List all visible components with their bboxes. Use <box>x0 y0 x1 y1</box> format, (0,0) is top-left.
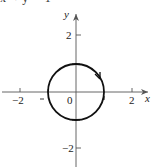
x-tick-label-2: 2 <box>129 94 135 106</box>
x-axis <box>2 88 148 95</box>
x-tick-label-neg2: −2 <box>12 94 24 106</box>
origin-label: 0 <box>67 94 73 106</box>
y-axis-label: y <box>63 8 69 20</box>
y-tick-label-neg2: −2 <box>62 142 74 154</box>
x-axis-label: x <box>144 92 150 104</box>
y-tick-label-2: 2 <box>66 29 72 41</box>
unit-circle-diagram: y x 2 −2 −2 2 0 <box>0 0 158 167</box>
y-axis <box>73 14 81 167</box>
